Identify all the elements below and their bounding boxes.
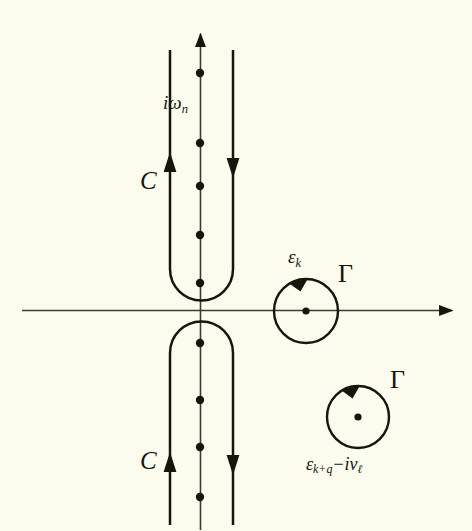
matsubara-pole-dot <box>196 231 204 239</box>
matsubara-pole-dot <box>196 493 204 501</box>
label-pole-epsilon-kq-sub: k+q <box>313 462 332 476</box>
contour-diagram-canvas <box>0 0 472 531</box>
label-pole-epsilon-k: εk <box>288 247 301 269</box>
matsubara-pole-dot <box>196 339 204 347</box>
contour-c-lower-right-arrowhead <box>227 455 240 475</box>
label-gamma-upper: Γ <box>338 261 353 287</box>
contour-diagram-figure: iωn C C εk Γ Γ εk+q−iνℓ <box>0 0 472 531</box>
contour-c-upper-left-arrowhead <box>164 152 177 172</box>
label-imaginary-axis-sub: n <box>182 102 188 116</box>
gamma-circle-epsilon-kq-center-dot <box>354 413 361 420</box>
matsubara-pole-dot <box>196 443 204 451</box>
label-pole-epsilon-kq: εk+q−iνℓ <box>306 455 362 476</box>
contour-c-upper-right-arrowhead <box>227 158 240 178</box>
contour-c-upper-arrows <box>164 152 240 178</box>
label-pole-epsilon-k-sub: k <box>296 256 302 270</box>
label-contour-c-lower: C <box>140 448 157 473</box>
gamma-circle-epsilon-k-center-dot <box>302 307 309 314</box>
matsubara-pole-dot <box>196 69 204 77</box>
matsubara-pole-dot <box>196 182 204 190</box>
label-imaginary-axis: iωn <box>163 93 188 115</box>
matsubara-pole-dot <box>196 396 204 404</box>
label-pole-epsilon-kq-rest: −iν <box>332 454 357 474</box>
label-pole-epsilon-k-main: ε <box>288 246 296 267</box>
label-imaginary-axis-main: iω <box>163 92 182 113</box>
contour-c-lower-arrows <box>164 452 240 475</box>
label-contour-c-upper: C <box>140 168 157 193</box>
gamma-circle-epsilon-kq <box>327 386 389 448</box>
contour-c-upper <box>170 50 233 301</box>
contour-c-upper-path <box>170 50 233 301</box>
matsubara-pole-dot <box>196 139 204 147</box>
contour-c-lower-left-arrowhead <box>164 452 177 472</box>
label-gamma-lower: Γ <box>390 367 405 393</box>
matsubara-pole-dot <box>196 279 204 287</box>
label-pole-epsilon-kq-rest-sub: ℓ <box>357 462 362 476</box>
